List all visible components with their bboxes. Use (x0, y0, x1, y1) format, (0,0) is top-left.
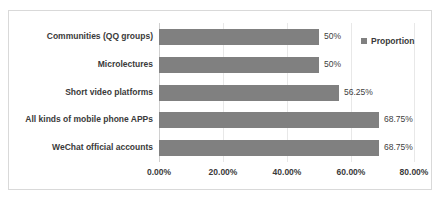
bar-value-label: 68.75% (384, 139, 413, 155)
bar-row: All kinds of mobile phone APPs 68.75% (159, 106, 415, 134)
category-label: Short video platforms (65, 84, 153, 100)
x-tick-label: 60.00% (337, 164, 366, 180)
bar-microlectures[interactable] (159, 57, 319, 73)
category-label: Communities (QQ groups) (47, 28, 153, 44)
bar-communities-qq-groups[interactable] (159, 29, 319, 45)
x-tick-label: 20.00% (209, 164, 238, 180)
x-tick-label: 0.00% (147, 164, 171, 180)
bar-row: WeChat official accounts 68.75% (159, 134, 415, 162)
bar-row: Short video platforms 56.25% (159, 79, 415, 107)
x-tick-label: 40.00% (273, 164, 302, 180)
bar-row: Microlectures 50% (159, 51, 415, 79)
legend-entry-label: Proportion (371, 36, 414, 46)
bar-wechat-official-accounts[interactable] (159, 140, 379, 156)
x-axis: 0.00% 20.00% 40.00% 60.00% 80.00% (159, 164, 415, 180)
category-label: Microlectures (98, 56, 153, 72)
bar-value-label: 50% (324, 28, 341, 44)
category-label: WeChat official accounts (52, 139, 153, 155)
category-label: All kinds of mobile phone APPs (25, 111, 153, 127)
chart-container: Communities (QQ groups) 50% Microlecture… (8, 10, 432, 190)
chart-legend[interactable]: Proportion (361, 36, 414, 46)
bar-value-label: 56.25% (344, 84, 373, 100)
bar-short-video-platforms[interactable] (159, 85, 339, 101)
bar-value-label: 50% (324, 56, 341, 72)
x-tick-label: 80.00% (400, 164, 429, 180)
bar-value-label: 68.75% (384, 111, 413, 127)
legend-swatch-icon (361, 38, 367, 44)
bar-mobile-phone-apps[interactable] (159, 112, 379, 128)
